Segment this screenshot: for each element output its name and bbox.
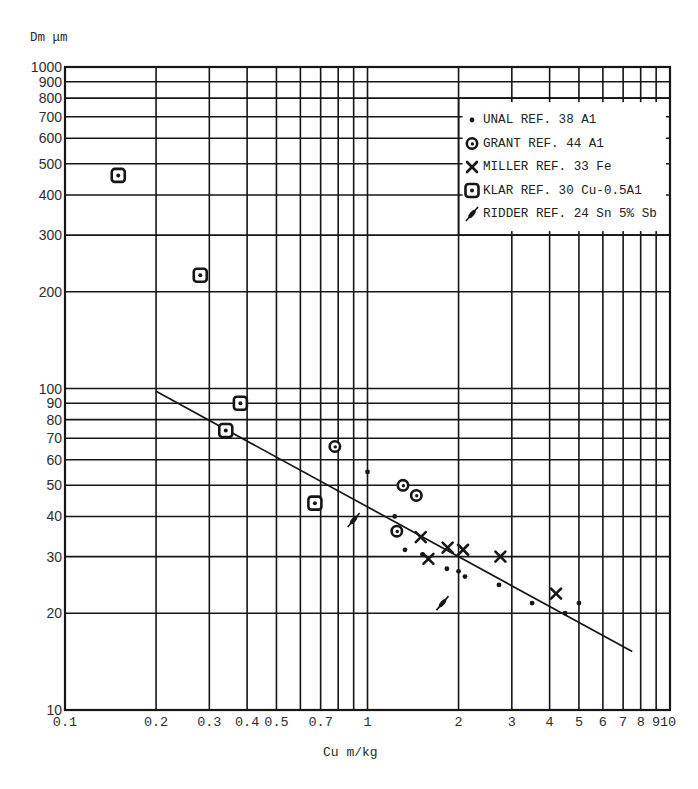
y-tick-label: 200 (39, 284, 63, 300)
y-tick-label: 100 (39, 381, 63, 397)
x-tick-label: 3 (508, 715, 516, 730)
y-tick-label: 300 (39, 227, 63, 243)
legend-label-ridder: RIDDER REF. 24 Sn 5% Sb (483, 207, 657, 221)
y-tick-label: 800 (39, 90, 63, 106)
x-tick-labels: 0.10.20.30.40.50.712345678910 (53, 715, 676, 730)
x-tick-label: 0.7 (308, 715, 332, 730)
square-center (116, 173, 120, 177)
y-tick-label: 20 (46, 605, 62, 621)
ring-center (396, 530, 399, 533)
x-tick-label: 0.5 (264, 715, 288, 730)
y-tick-label: 600 (39, 130, 63, 146)
data-point-klar (219, 424, 232, 437)
data-point-grant (330, 441, 340, 451)
x-tick-label: 8 (637, 715, 645, 730)
y-tick-label: 40 (46, 508, 62, 524)
x-tick-label: 1 (363, 715, 371, 730)
y-tick-label: 80 (46, 412, 62, 428)
square-center (198, 273, 202, 277)
data-point-klar (308, 497, 321, 510)
dot-shape (530, 601, 535, 606)
data-point-klar (234, 397, 247, 410)
ring-center (471, 142, 474, 145)
data-point-grant (398, 480, 408, 490)
dot-shape (563, 611, 568, 616)
data-point-unal (365, 470, 370, 475)
square-center (224, 429, 228, 433)
chart: 1020304050607080901002003004005006007008… (0, 0, 698, 789)
x-tick-label: 0.1 (53, 715, 77, 730)
x-tick-label: 0.4 (235, 715, 259, 730)
y-tick-label: 60 (46, 452, 62, 468)
dot-shape (470, 118, 475, 123)
data-point-grant (411, 490, 421, 500)
legend-dot-icon (470, 118, 475, 123)
dot-shape (463, 574, 468, 579)
x-tick-label: 0.3 (197, 715, 221, 730)
x-tick-label: 10 (660, 715, 676, 730)
ring-center (415, 494, 418, 497)
ring-center (334, 445, 337, 448)
y-axis-title: Dm μm (30, 31, 68, 46)
legend-label-unal: UNAL REF. 38 A1 (483, 113, 596, 127)
x-tick-label: 4 (546, 715, 554, 730)
ring-center (402, 484, 405, 487)
y-tick-label: 1000 (31, 59, 62, 75)
dot-shape (365, 470, 370, 475)
dot-shape (444, 566, 449, 571)
dot-shape (392, 514, 397, 519)
legend-circle-dot-icon (467, 138, 477, 148)
data-point-unal (530, 601, 535, 606)
legend-label-miller: MILLER REF. 33 Fe (483, 160, 611, 174)
y-tick-label: 700 (39, 109, 63, 125)
x-tick-label: 7 (619, 715, 627, 730)
data-point-unal (392, 514, 397, 519)
data-point-unal (497, 582, 502, 587)
y-tick-label: 900 (39, 74, 63, 90)
square-center (238, 401, 242, 405)
data-point-unal (403, 547, 408, 552)
legend-label-grant: GRANT REF. 44 A1 (483, 137, 604, 151)
square-center (470, 189, 474, 193)
data-point-unal (444, 566, 449, 571)
dot-shape (403, 547, 408, 552)
y-tick-label: 70 (46, 430, 62, 446)
x-axis-title: Cu m/kg (323, 745, 378, 760)
data-point-klar (112, 169, 125, 182)
y-tick-label: 90 (46, 395, 62, 411)
data-point-klar (194, 269, 207, 282)
data-point-unal (456, 569, 461, 574)
y-tick-label: 400 (39, 187, 63, 203)
dot-shape (497, 582, 502, 587)
y-tick-label: 30 (46, 549, 62, 565)
y-tick-label: 50 (46, 477, 62, 493)
dot-shape (456, 569, 461, 574)
data-point-unal (463, 574, 468, 579)
x-tick-label: 0.2 (144, 715, 168, 730)
x-tick-label: 6 (599, 715, 607, 730)
data-point-unal (563, 611, 568, 616)
square-center (313, 501, 317, 505)
y-tick-label: 500 (39, 156, 63, 172)
legend-label-klar: KLAR REF. 30 Cu-0.5A1 (483, 184, 642, 198)
data-point-unal (577, 601, 582, 606)
data-point-grant (392, 526, 402, 536)
x-tick-label: 2 (455, 715, 463, 730)
legend-square-dot-icon (466, 184, 479, 197)
dot-shape (577, 601, 582, 606)
x-tick-label: 5 (575, 715, 583, 730)
